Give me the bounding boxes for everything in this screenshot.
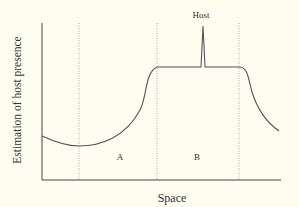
region-a-label: A	[117, 152, 124, 162]
region-b-label: B	[194, 152, 200, 162]
y-axis-label: Estimation of host presence	[11, 36, 24, 163]
diagram: Host A B Space Estimation of host presen…	[0, 0, 299, 207]
host-presence-curve	[42, 26, 279, 146]
chart-svg: Host A B Space Estimation of host presen…	[0, 0, 299, 207]
x-axis-label: Space	[158, 191, 187, 205]
host-label: Host	[192, 10, 210, 20]
